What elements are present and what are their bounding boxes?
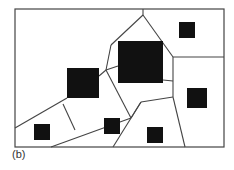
square-large-top — [118, 41, 163, 83]
voronoi-diagram — [0, 0, 234, 170]
square-small-bottom — [147, 127, 163, 143]
square-small-bottom-left — [34, 124, 50, 140]
cell-edge — [106, 45, 111, 70]
cell-edge — [99, 70, 106, 76]
cell-edge — [163, 80, 173, 81]
square-small-middle — [104, 118, 120, 134]
site-squares — [34, 22, 207, 143]
square-small-right — [187, 88, 207, 108]
cell-edge — [15, 98, 67, 128]
cell-edge — [106, 66, 118, 70]
cell-edge — [63, 104, 75, 130]
square-small-top-right — [179, 22, 195, 38]
square-large-left — [67, 68, 99, 98]
figure-caption: (b) — [12, 148, 25, 160]
cell-edge — [173, 97, 185, 147]
cell-edge — [111, 15, 143, 45]
cell-edge — [141, 97, 173, 102]
